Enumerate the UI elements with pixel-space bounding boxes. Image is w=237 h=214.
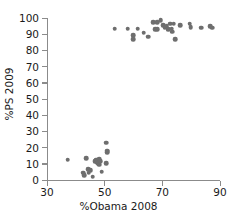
data-point [99,170,104,175]
y-axis-tick-label: 40 [26,110,39,120]
data-point [98,159,103,164]
data-point [112,26,117,31]
data-point [84,156,89,161]
data-point [104,161,109,166]
y-axis-tick-label: 10 [26,159,39,169]
plot-area [47,18,220,180]
data-point [136,26,141,31]
data-point [104,140,109,145]
y-axis-tick-label: 50 [26,94,39,104]
y-axis-tick [42,99,47,100]
y-axis-tick [42,50,47,51]
y-axis-tick-label: 60 [26,78,39,88]
data-point [188,25,193,30]
y-axis-tick [42,147,47,148]
x-axis-tick-label: 30 [40,187,53,197]
y-axis-tick [42,18,47,19]
y-axis-tick-label: 0 [32,175,39,185]
y-axis-tick-label: 80 [26,45,39,55]
data-point [210,25,215,30]
y-axis-tick [42,66,47,67]
y-axis-tick-label: 70 [26,62,39,72]
y-axis-tick [42,34,47,35]
y-axis-tick-label: 90 [26,29,39,39]
data-point [89,168,94,173]
x-axis-line [47,180,220,181]
y-axis-tick [42,131,47,132]
data-point [199,25,204,30]
y-axis-tick-label: 20 [26,143,39,153]
y-axis-tick-label: 100 [19,13,39,23]
y-axis-title: %PS 2009 [3,59,15,129]
y-axis-tick-label: 30 [26,126,39,136]
y-axis-line [47,18,48,180]
y-axis-tick [42,82,47,83]
x-axis-tick-label: 50 [98,187,111,197]
data-point [131,37,136,42]
data-point [170,29,175,34]
data-point [65,157,70,162]
data-point [172,21,177,26]
data-point [105,150,110,155]
data-point [178,23,183,28]
x-axis-tick-label: 70 [156,187,169,197]
data-point [146,34,151,39]
y-axis-tick [42,163,47,164]
data-point [90,174,95,179]
data-point [82,173,87,178]
data-point [173,37,178,42]
data-point [125,26,130,31]
x-axis-title: %Obama 2008 [0,200,237,212]
y-axis-tick [42,115,47,116]
data-point [155,27,160,32]
x-axis-tick-label: 90 [213,187,226,197]
scatter-plot-figure: 0102030405060708090100 30507090 %Obama 2… [0,0,237,214]
